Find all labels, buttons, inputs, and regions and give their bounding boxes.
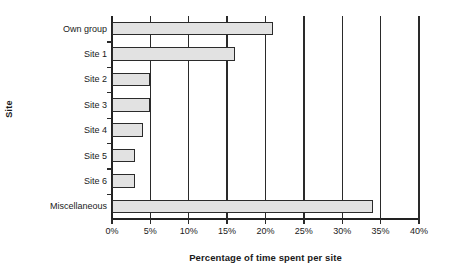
plot-area: 0%5%10%15%20%25%30%35%40% (112, 16, 419, 219)
bar-chart: Site Own groupSite 1Site 2Site 3Site 4Si… (0, 0, 451, 273)
bar (112, 98, 150, 112)
y-axis-category-label: Site 6 (84, 176, 107, 186)
y-axis-tick (107, 168, 112, 169)
x-axis-tick (380, 219, 381, 224)
x-axis-tick (303, 219, 304, 224)
bar (112, 174, 135, 188)
x-axis-tick-label: 40% (399, 226, 439, 236)
category-label-column: Own groupSite 1Site 2Site 3Site 4Site 5S… (0, 16, 112, 219)
y-axis-category-label: Site 5 (84, 151, 107, 161)
x-axis-tick-label: 30% (322, 226, 362, 236)
y-axis-tick (107, 118, 112, 119)
x-axis-tick-label: 25% (284, 226, 324, 236)
y-axis-tick (107, 67, 112, 68)
bar (112, 149, 135, 163)
x-axis-tick-label: 20% (246, 226, 286, 236)
x-axis-tick (418, 219, 419, 224)
x-gridline (418, 16, 419, 219)
y-axis-category-label: Site 1 (84, 49, 107, 59)
x-axis-tick (188, 219, 189, 224)
y-axis-tick (107, 92, 112, 93)
x-axis-tick-label: 15% (207, 226, 247, 236)
x-axis-tick-label: 5% (130, 226, 170, 236)
y-axis-tick (107, 143, 112, 144)
x-gridline (303, 16, 304, 219)
x-axis-tick (150, 219, 151, 224)
bar (112, 22, 273, 36)
x-axis-tick (226, 219, 227, 224)
x-gridline (265, 16, 266, 219)
x-axis-tick (111, 219, 112, 224)
y-axis-category-label: Miscellaneous (50, 201, 107, 211)
x-axis-tick (342, 219, 343, 224)
bar (112, 200, 373, 214)
x-axis-tick (265, 219, 266, 224)
bar (112, 47, 235, 61)
x-axis-tick-label: 10% (169, 226, 209, 236)
x-axis-tick-label: 0% (92, 226, 132, 236)
x-gridline (342, 16, 343, 219)
y-axis-category-label: Own group (63, 24, 107, 34)
x-axis-tick-label: 35% (361, 226, 401, 236)
y-axis-category-label: Site 4 (84, 125, 107, 135)
x-gridline (380, 16, 381, 219)
bar (112, 123, 143, 137)
bar (112, 73, 150, 87)
y-axis-category-label: Site 3 (84, 100, 107, 110)
y-axis-category-label: Site 2 (84, 74, 107, 84)
y-axis-tick (107, 194, 112, 195)
x-axis-title: Percentage of time spent per site (112, 252, 419, 263)
y-axis-tick (107, 41, 112, 42)
